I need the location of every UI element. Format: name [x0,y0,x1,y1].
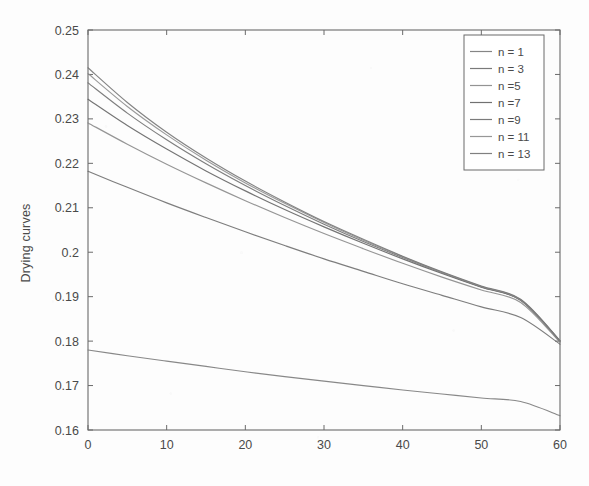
legend-label: n =5 [498,80,521,92]
line-chart: 01020304050600.160.170.180.190.20.210.22… [0,0,589,486]
x-tick-label: 40 [396,438,410,452]
y-tick-label: 0.24 [55,68,79,82]
series-line [88,171,560,344]
legend: n = 1n = 3n =5n =7n =9n = 11n = 13 [464,35,544,170]
y-tick-label: 0.25 [55,24,79,38]
x-tick-label: 10 [160,438,174,452]
x-tick-label: 60 [553,438,567,452]
legend-label: n = 13 [498,148,530,160]
x-tick-label: 20 [238,438,252,452]
legend-label: n =9 [498,114,521,126]
legend-label: n =7 [498,97,521,109]
y-tick-label: 0.22 [55,157,79,171]
legend-label: n = 3 [498,63,524,75]
y-tick-label: 0.18 [55,335,79,349]
y-tick-label: 0.19 [55,290,79,304]
y-tick-label: 0.16 [55,424,79,438]
x-tick-label: 30 [317,438,331,452]
legend-label: n = 1 [498,46,524,58]
y-tick-label: 0.2 [62,246,79,260]
y-tick-label: 0.21 [55,201,79,215]
x-tick-label: 0 [85,438,92,452]
y-tick-label: 0.17 [55,379,79,393]
figure-canvas: Drying curves 01020304050600.160.170.180… [0,0,589,486]
legend-label: n = 11 [498,131,529,143]
x-tick-label: 50 [474,438,488,452]
series-line [88,350,560,416]
y-tick-label: 0.23 [55,112,79,126]
